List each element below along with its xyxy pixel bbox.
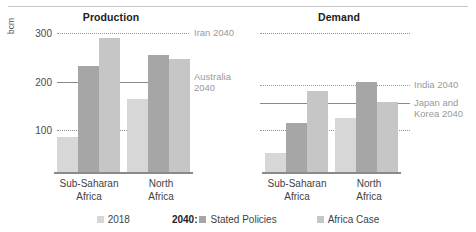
- cat-label-demand-north-africa: North Africa: [338, 178, 400, 203]
- x-axis-line: [54, 172, 193, 174]
- bar-demand-ssa-2018[interactable]: [265, 153, 286, 172]
- demand-bars: [238, 26, 476, 172]
- bar-production-na-2018[interactable]: [127, 99, 148, 172]
- demand-plot-area: India 2040 Japan and Korea 2040 Sub-Saha…: [238, 0, 476, 205]
- bar-production-na-stated-policies[interactable]: [148, 55, 169, 172]
- bar-demand-na-2018[interactable]: [335, 118, 356, 172]
- chart-legend: 2018 2040: Stated Policies Africa Case: [0, 206, 476, 232]
- legend-group-2040-label: 2040:: [172, 214, 198, 225]
- bar-production-na-africa-case[interactable]: [169, 59, 190, 172]
- bar-production-ssa-stated-policies[interactable]: [78, 66, 99, 172]
- cat-label-demand-sub-saharan-africa: Sub-Saharan Africa: [258, 178, 336, 203]
- chart-root: Production bcm 300 200 100 Iran 2040 Aus…: [0, 0, 476, 232]
- legend-swatch-2018-icon: [97, 216, 104, 223]
- bar-demand-na-stated-policies[interactable]: [356, 82, 377, 172]
- production-plot-area: bcm 300 200 100 Iran 2040 Australia 2040: [0, 0, 238, 205]
- legend-label-2018: 2018: [108, 214, 130, 225]
- legend-label-stated-policies: Stated Policies: [210, 214, 276, 225]
- cat-label-production-sub-saharan-africa: Sub-Saharan Africa: [50, 178, 128, 203]
- panel-production: Production bcm 300 200 100 Iran 2040 Aus…: [0, 0, 238, 205]
- bar-production-ssa-2018[interactable]: [57, 137, 78, 172]
- cat-label-production-north-africa: North Africa: [130, 178, 192, 203]
- legend-label-africa-case: Africa Case: [328, 214, 380, 225]
- legend-item-stated-policies[interactable]: Stated Policies: [199, 214, 276, 225]
- bar-demand-ssa-africa-case[interactable]: [307, 91, 328, 172]
- bar-production-ssa-africa-case[interactable]: [99, 38, 120, 172]
- legend-item-africa-case[interactable]: Africa Case: [317, 214, 380, 225]
- legend-swatch-stated-policies-icon: [199, 216, 206, 223]
- legend-item-2018[interactable]: 2018: [97, 214, 130, 225]
- production-bars: [0, 26, 238, 172]
- bar-demand-na-africa-case[interactable]: [377, 102, 398, 172]
- panel-demand: Demand India 2040 Japan and Korea 2040: [238, 0, 476, 205]
- legend-swatch-africa-case-icon: [317, 216, 324, 223]
- x-axis-line: [262, 172, 401, 174]
- bar-demand-ssa-stated-policies[interactable]: [286, 123, 307, 172]
